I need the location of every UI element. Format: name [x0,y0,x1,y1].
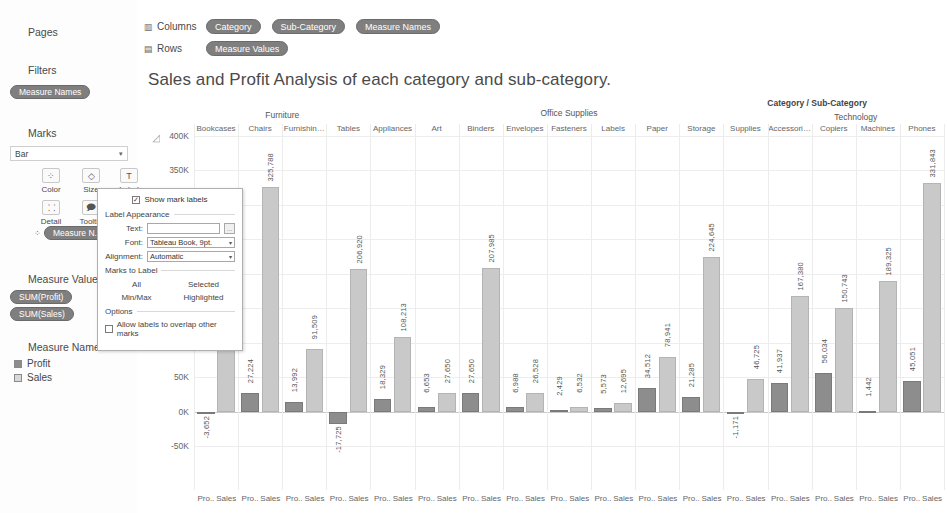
category-group-label[interactable]: Furniture [265,110,299,120]
category-group-label[interactable]: Office Supplies [540,108,597,118]
x-measure-label[interactable]: Pro.. [680,494,702,503]
bar-profit-accessories[interactable]: 41,937 [771,136,789,446]
bar-sales-appliances[interactable]: 108,213 [394,136,412,446]
x-measure-label[interactable]: Pro.. [504,494,526,503]
bar-profit-paper[interactable]: 34,512 [638,136,656,446]
marks-detail-button[interactable]: ⸬ Detail [34,200,68,226]
rows-shelf[interactable]: ▤ Rows Measure Values [144,40,944,57]
bar-sales-chairs[interactable]: 325,788 [262,136,280,446]
x-measure-label[interactable]: Sales [524,494,546,503]
bar-profit-phones[interactable]: 45,051 [903,136,921,446]
subcategory-label[interactable]: Supplies [723,124,767,133]
x-measure-label[interactable]: Pro.. [371,494,393,503]
x-measure-label[interactable]: Sales [877,494,899,503]
x-measure-label[interactable]: Sales [833,494,855,503]
bar-sales-machines[interactable]: 189,325 [879,136,897,446]
bar-sales-fasteners[interactable]: 6,532 [570,136,588,446]
subcategory-label[interactable]: Copiers [812,124,856,133]
bar-sales-tables[interactable]: 206,920 [350,136,368,446]
bar-profit-envelopes[interactable]: 6,988 [506,136,524,446]
marks-type-dropdown[interactable]: Bar ▾ [10,146,128,161]
bar-profit-copiers[interactable]: 56,034 [815,136,833,446]
bar-sales-art[interactable]: 27,650 [438,136,456,446]
subcategory-label[interactable]: Envelopes [503,124,547,133]
rows-pill-0[interactable]: Measure Values [206,41,288,56]
columns-pill-2[interactable]: Measure Names [356,19,440,34]
x-measure-label[interactable]: Sales [656,494,678,503]
marks-color-button[interactable]: ⁘ Color [34,168,68,194]
alignment-dropdown[interactable]: Automatic ▾ [147,251,235,262]
bar-sales-storage[interactable]: 224,645 [703,136,721,446]
checkbox-icon[interactable] [105,325,113,333]
text-edit-button[interactable]: … [224,223,235,234]
subcategory-label[interactable]: Chairs [238,124,282,133]
x-measure-label[interactable]: Sales [436,494,458,503]
bar-sales-paper[interactable]: 78,941 [659,136,677,446]
x-measure-label[interactable]: Pro.. [327,494,349,503]
bar-profit-appliances[interactable]: 18,329 [374,136,392,446]
x-measure-label[interactable]: Sales [745,494,767,503]
font-dropdown[interactable]: Tableau Book, 9pt. ▾ [147,237,235,248]
columns-shelf[interactable]: ▥ Columns CategorySub-CategoryMeasure Na… [144,18,944,35]
x-measure-label[interactable]: Sales [480,494,502,503]
x-measure-label[interactable]: Pro.. [195,494,217,503]
subcategory-label[interactable]: Binders [459,124,503,133]
subcategory-label[interactable]: Storage [679,124,723,133]
x-measure-label[interactable]: Sales [348,494,370,503]
bar-sales-copiers[interactable]: 150,743 [835,136,853,446]
marks-option-2[interactable]: Min/Max [105,292,168,303]
bar-sales-binders[interactable]: 207,985 [482,136,500,446]
bar-sales-supplies[interactable]: 46,725 [747,136,765,446]
x-measure-label[interactable]: Pro.. [768,494,790,503]
filter-pill[interactable]: Measure Names [10,85,90,99]
x-measure-label[interactable]: Sales [259,494,281,503]
bar-profit-storage[interactable]: 21,285 [682,136,700,446]
legend-item-profit[interactable]: Profit [14,358,50,369]
bar-sales-envelopes[interactable]: 26,528 [526,136,544,446]
bar-profit-fasteners[interactable]: 2,429 [550,136,568,446]
x-measure-label[interactable]: Pro.. [460,494,482,503]
text-field-row[interactable]: Text: … [105,223,235,234]
font-field-row[interactable]: Font: Tableau Book, 9pt. ▾ [105,237,235,248]
measure-pill[interactable]: SUM(Sales) [10,307,74,321]
columns-pill-1[interactable]: Sub-Category [272,19,346,34]
legend-item-sales[interactable]: Sales [14,372,52,383]
label-settings-dialog[interactable]: ✓ Show mark labels Label Appearance Text… [97,188,243,351]
show-mark-labels-row[interactable]: ✓ Show mark labels [105,195,235,204]
x-measure-label[interactable]: Pro.. [724,494,746,503]
x-measure-label[interactable]: Pro.. [283,494,305,503]
bar-sales-furnishings[interactable]: 91,509 [306,136,324,446]
checkbox-icon[interactable]: ✓ [132,196,140,204]
x-measure-label[interactable]: Pro.. [239,494,261,503]
x-measure-label[interactable]: Sales [215,494,237,503]
category-group-label[interactable]: Technology [834,112,877,122]
x-measure-label[interactable]: Pro.. [415,494,437,503]
subcategory-label[interactable]: Machines [856,124,900,133]
allow-overlap-row[interactable]: Allow labels to overlap other marks [105,320,235,338]
x-measure-label[interactable]: Sales [303,494,325,503]
x-measure-label[interactable]: Sales [568,494,590,503]
bar-sales-phones[interactable]: 331,843 [923,136,941,446]
bar-profit-binders[interactable]: 27,650 [462,136,480,446]
subcategory-label[interactable]: Phones [900,124,944,133]
subcategory-label[interactable]: Appliances [370,124,414,133]
subcategory-label[interactable]: Art [415,124,459,133]
bar-sales-accessories[interactable]: 167,380 [791,136,809,446]
bar-profit-supplies[interactable]: -1,171 [727,136,745,446]
filter-pill-measure-names[interactable]: Measure Names [10,85,120,99]
x-measure-label[interactable]: Pro.. [857,494,879,503]
alignment-field-row[interactable]: Alignment: Automatic ▾ [105,251,235,262]
sort-icon[interactable]: ◺ [152,132,160,143]
x-measure-label[interactable]: Sales [789,494,811,503]
bar-profit-labels[interactable]: 5,573 [594,136,612,446]
bar-profit-tables[interactable]: -17,725 [329,136,347,446]
bar-sales-labels[interactable]: 12,695 [614,136,632,446]
subcategory-label[interactable]: Tables [326,124,370,133]
x-measure-label[interactable]: Sales [921,494,943,503]
text-input[interactable] [147,223,220,234]
x-measure-label[interactable]: Pro.. [592,494,614,503]
x-measure-label[interactable]: Pro.. [548,494,570,503]
marks-option-1[interactable]: Selected [172,279,235,290]
subcategory-label[interactable]: Paper [635,124,679,133]
subcategory-label[interactable]: Furnishin… [282,124,326,133]
